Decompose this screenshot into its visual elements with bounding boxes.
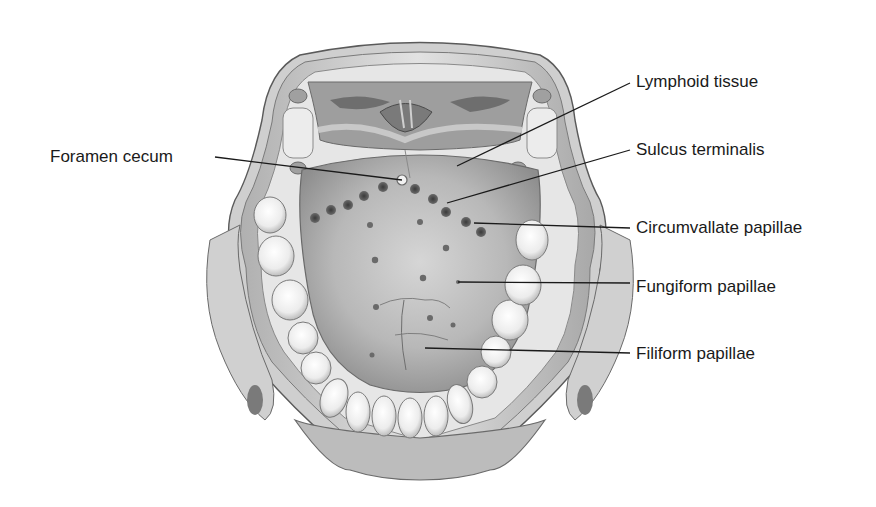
left-palatine-tonsil	[283, 108, 313, 158]
label-foramen-cecum: Foramen cecum	[50, 147, 173, 167]
label-circumvallate-papillae: Circumvallate papillae	[636, 218, 802, 238]
label-filiform-papillae: Filiform papillae	[636, 344, 755, 364]
label-lymphoid-tissue: Lymphoid tissue	[636, 72, 758, 92]
label-sulcus-terminalis: Sulcus terminalis	[636, 140, 765, 160]
label-fungiform-papillae: Fungiform papillae	[636, 277, 776, 297]
tongue-anatomy-figure: Foramen cecum Lymphoid tissue Sulcus ter…	[0, 0, 876, 507]
right-palatine-tonsil	[527, 108, 557, 158]
